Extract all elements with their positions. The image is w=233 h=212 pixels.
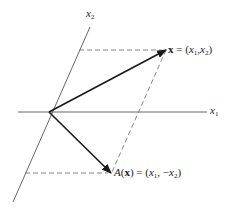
- x2-axis-label: x2: [86, 8, 94, 21]
- x1-axis-label: x1: [210, 105, 218, 118]
- vector-ax-close: ): [177, 166, 181, 178]
- reflection-diagram: [0, 0, 233, 212]
- vector-ax-eq: = (: [134, 166, 149, 178]
- vector-ax-arrow: [49, 112, 111, 173]
- vector-x-close: ): [208, 43, 212, 55]
- x1-axis-label-sub: 1: [215, 110, 219, 118]
- vector-ax-fn: A: [114, 166, 121, 178]
- vector-x-label: x = (x1,x2): [168, 44, 212, 57]
- vector-ax-label: A(x) = (x1, −x2): [114, 167, 181, 180]
- dashed-projection-slanted: [112, 50, 166, 172]
- x2-axis-label-sub: 2: [91, 13, 95, 21]
- vector-x-eq: = (: [174, 43, 189, 55]
